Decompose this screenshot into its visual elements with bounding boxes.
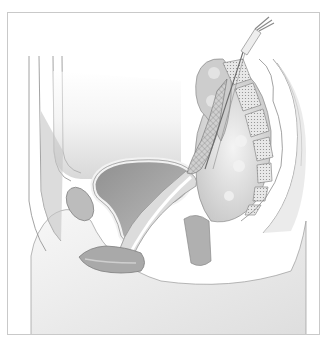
body-outline bbox=[31, 210, 306, 335]
illustration-frame bbox=[7, 12, 320, 335]
anal-canal bbox=[184, 215, 211, 265]
pelvis-illustration bbox=[8, 13, 320, 335]
